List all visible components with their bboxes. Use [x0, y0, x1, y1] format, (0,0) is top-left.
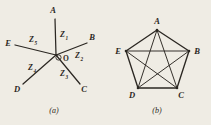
node-label-a-E: E [4, 38, 11, 48]
edge-D-E [126, 51, 138, 88]
node-label-a-D: D [13, 84, 20, 94]
impedance-label-Z3: Z 3 [59, 69, 69, 80]
node-label-a-A: A [49, 5, 56, 15]
impedance-subscript-Z3: 3 [65, 74, 69, 80]
node-label-b-E: E [114, 46, 121, 56]
node-label-b-B: B [193, 46, 200, 56]
spoke-O-B [56, 43, 87, 55]
node-label-b-C: C [178, 90, 184, 100]
edge-A-B [157, 30, 189, 51]
edge-E-A [126, 30, 157, 51]
node-label-b-D: D [128, 90, 135, 100]
impedance-subscript-Z2: 2 [80, 56, 84, 62]
impedance-label-Z1: Z 1 [59, 30, 69, 41]
center-node-label: O [63, 54, 69, 63]
impedance-symbol-Z1: Z [59, 30, 65, 39]
figure-container: O A B C D E Z 1 Z 2 Z 3 [0, 0, 211, 125]
edge-A-C [157, 30, 177, 88]
impedance-subscript-Z4: 4 [33, 68, 37, 74]
spoke-O-A [55, 19, 56, 55]
edge-B-C [177, 51, 189, 88]
caption-panel-a: (a) [49, 106, 59, 115]
impedance-symbol-Z3: Z [59, 69, 65, 78]
impedance-subscript-Z1: 1 [66, 35, 69, 41]
panel-b-perimeter-edges [126, 30, 189, 88]
panel-a-node-labels: A B C D E [4, 5, 95, 94]
impedance-label-Z2: Z 2 [74, 51, 84, 62]
node-label-a-C: C [81, 84, 87, 94]
vertex-B [188, 50, 191, 53]
panel-a-star-network: O A B C D E Z 1 Z 2 Z 3 [4, 5, 95, 115]
vertex-D [137, 87, 140, 90]
edge-A-D [138, 30, 157, 88]
vertex-A [156, 29, 159, 32]
caption-panel-b: (b) [152, 106, 162, 115]
edge-C-E [126, 51, 177, 88]
impedance-label-Z4: Z 4 [27, 63, 37, 74]
impedance-symbol-Z4: Z [27, 63, 33, 72]
node-label-b-A: A [153, 16, 160, 26]
node-label-a-B: B [88, 32, 95, 42]
spoke-O-E [15, 45, 56, 55]
figure-canvas: O A B C D E Z 1 Z 2 Z 3 [0, 0, 211, 125]
edge-B-D [138, 51, 189, 88]
panel-b-mesh-network: A B C D E (b) [114, 16, 200, 115]
vertex-E [125, 50, 128, 53]
vertex-C [176, 87, 179, 90]
impedance-symbol-Z5: Z [28, 35, 34, 44]
impedance-label-Z5: Z 5 [28, 35, 38, 46]
panel-b-vertices [125, 29, 191, 90]
impedance-symbol-Z2: Z [74, 51, 80, 60]
impedance-subscript-Z5: 5 [35, 40, 38, 46]
